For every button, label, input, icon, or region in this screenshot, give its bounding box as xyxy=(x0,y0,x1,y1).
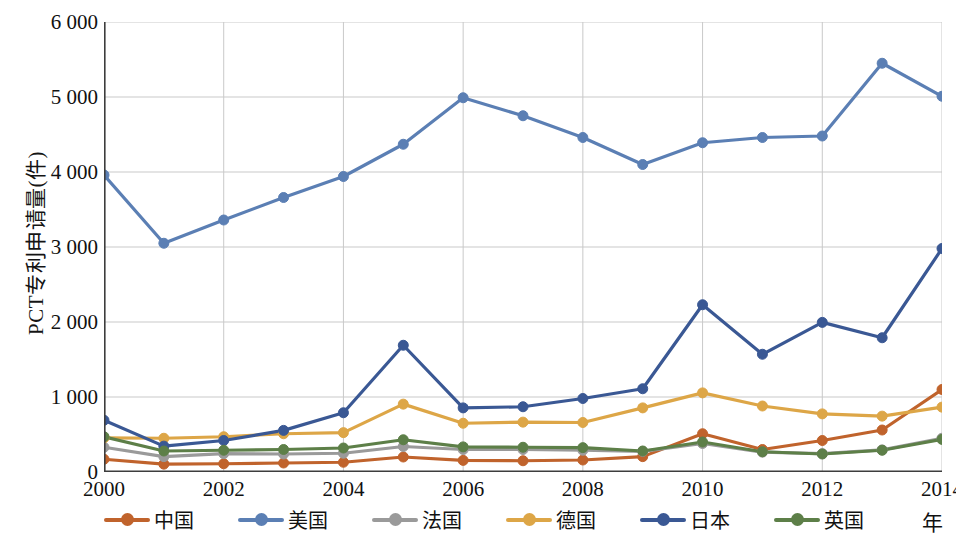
series-point xyxy=(159,238,169,248)
x-tick-label: 2008 xyxy=(562,477,604,502)
x-tick-label: 2000 xyxy=(83,477,125,502)
series-point xyxy=(518,402,528,412)
series-point xyxy=(398,340,408,350)
x-tick-label: 2006 xyxy=(442,477,484,502)
x-tick-label: 2010 xyxy=(682,477,724,502)
legend-label: 中国 xyxy=(154,505,194,534)
legend-item-美国[interactable]: 美国 xyxy=(238,505,328,534)
x-tick-label: 2002 xyxy=(203,477,245,502)
series-point xyxy=(398,435,408,445)
series-point xyxy=(518,417,528,427)
series-point xyxy=(578,133,588,143)
series-point xyxy=(757,401,767,411)
legend-marker-icon xyxy=(774,513,820,527)
chart-legend: 中国美国法国德国日本英国 xyxy=(104,505,864,534)
series-point xyxy=(279,445,289,455)
series-points xyxy=(104,58,942,469)
series-point xyxy=(159,446,169,456)
y-tick-label: 1 000 xyxy=(8,385,98,410)
y-tick-label: 2 000 xyxy=(8,310,98,335)
y-tick-label: 6 000 xyxy=(8,10,98,35)
series-point xyxy=(817,449,827,459)
series-point xyxy=(338,443,348,453)
y-axis-tick-labels: 01 0002 0003 0004 0005 0006 000 xyxy=(0,0,98,535)
series-point xyxy=(877,411,887,421)
series-point xyxy=(458,442,468,452)
series-point xyxy=(458,455,468,465)
legend-item-法国[interactable]: 法国 xyxy=(372,505,462,534)
series-point xyxy=(877,333,887,343)
legend-marker-icon xyxy=(104,513,150,527)
series-point xyxy=(458,403,468,413)
x-tick-label: 2014 xyxy=(921,477,956,502)
plot-area xyxy=(104,22,942,472)
series-point xyxy=(338,172,348,182)
series-point xyxy=(638,384,648,394)
series-point xyxy=(219,459,229,469)
series-point xyxy=(219,445,229,455)
legend-marker-icon xyxy=(640,513,686,527)
series-point xyxy=(578,394,588,404)
legend-item-英国[interactable]: 英国 xyxy=(774,505,864,534)
series-point xyxy=(698,388,708,398)
series-point xyxy=(398,139,408,149)
series-point xyxy=(518,111,528,121)
legend-marker-icon xyxy=(506,513,552,527)
series-point xyxy=(338,428,348,438)
series-point xyxy=(817,436,827,446)
series-line-4 xyxy=(104,249,942,447)
series-point xyxy=(877,425,887,435)
series-point xyxy=(638,446,648,456)
series-point xyxy=(578,443,588,453)
series-point xyxy=(698,138,708,148)
series-point xyxy=(338,408,348,418)
series-point xyxy=(279,425,289,435)
x-axis-title: 年 xyxy=(922,506,943,535)
series-line-1 xyxy=(104,63,942,243)
series-point xyxy=(817,409,827,419)
y-tick-label: 5 000 xyxy=(8,85,98,110)
legend-item-日本[interactable]: 日本 xyxy=(640,505,730,534)
series-point xyxy=(757,447,767,457)
series-point xyxy=(458,93,468,103)
legend-marker-icon xyxy=(238,513,284,527)
series-point xyxy=(398,399,408,409)
plot-svg xyxy=(104,22,942,472)
series-point xyxy=(518,456,528,466)
series-point xyxy=(817,317,827,327)
series-point xyxy=(398,452,408,462)
legend-item-德国[interactable]: 德国 xyxy=(506,505,596,534)
y-tick-label: 4 000 xyxy=(8,160,98,185)
series-line-3 xyxy=(104,393,942,438)
series-point xyxy=(518,442,528,452)
legend-label: 日本 xyxy=(690,505,730,534)
legend-item-中国[interactable]: 中国 xyxy=(104,505,194,534)
legend-label: 英国 xyxy=(824,505,864,534)
series-point xyxy=(578,455,588,465)
legend-label: 德国 xyxy=(556,505,596,534)
series-point xyxy=(219,436,229,446)
series-point xyxy=(817,131,827,141)
series-point xyxy=(698,437,708,447)
series-point xyxy=(937,402,942,412)
series-point xyxy=(638,160,648,170)
x-tick-label: 2004 xyxy=(322,477,364,502)
x-tick-label: 2012 xyxy=(801,477,843,502)
series-point xyxy=(698,300,708,310)
legend-marker-icon xyxy=(372,513,418,527)
series-point xyxy=(279,193,289,203)
series-point xyxy=(638,403,648,413)
y-tick-label: 3 000 xyxy=(8,235,98,260)
series-point xyxy=(578,418,588,428)
legend-label: 法国 xyxy=(422,505,462,534)
legend-label: 美国 xyxy=(288,505,328,534)
series-point xyxy=(757,349,767,359)
pct-patent-applications-line-chart: PCT专利申请量(件) 01 0002 0003 0004 0005 0006 … xyxy=(0,0,956,535)
series-point xyxy=(219,215,229,225)
series-point xyxy=(877,58,887,68)
series-point xyxy=(877,445,887,455)
series-point xyxy=(458,418,468,428)
series-point xyxy=(757,133,767,143)
